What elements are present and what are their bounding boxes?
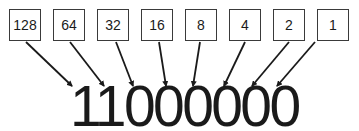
arrow-icon <box>26 42 72 86</box>
binary-number: 11000000 <box>70 78 299 131</box>
